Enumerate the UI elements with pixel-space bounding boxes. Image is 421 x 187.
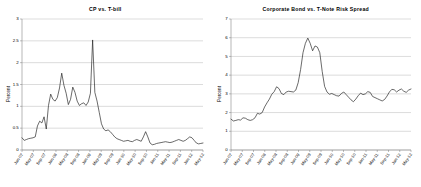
- x-tick-label: May-07: [23, 152, 35, 167]
- y-tick-label: 2.5: [13, 38, 20, 43]
- x-tick-label: May-07: [232, 152, 244, 167]
- x-tick-label: May-08: [57, 152, 69, 167]
- x-tick-label: Sep-09: [311, 152, 323, 166]
- x-tick-label: May-11: [159, 152, 171, 166]
- y-tick-label: 4: [225, 72, 228, 77]
- y-tick-label: 3: [225, 91, 228, 96]
- x-tick-label: May-12: [193, 152, 205, 167]
- y-tick-label: 1.5: [13, 82, 20, 87]
- chart-plot-area: 01234567Jan-07May-07Sep-07Jan-08May-08Se…: [211, 0, 421, 187]
- y-tick-label: 2: [16, 60, 19, 65]
- chart-panel-cp-vs-tbill: CP vs. T-bill Percent 00.511.522.53Jan-0…: [0, 0, 211, 187]
- y-tick-label: 7: [225, 16, 228, 21]
- x-tick-label: May-10: [125, 152, 137, 167]
- x-tick-label: Sep-10: [137, 152, 149, 166]
- x-tick-label: May-09: [299, 152, 311, 167]
- chart-panel-corporate-bond-spread: Corporate Bond vs. T-Note Risk Spread Pe…: [211, 0, 421, 187]
- x-tick-label: Sep-11: [379, 152, 391, 166]
- y-tick-label: 0: [16, 147, 19, 152]
- figure-container: CP vs. T-bill Percent 00.511.522.53Jan-0…: [0, 0, 421, 187]
- x-tick-label: Sep-08: [69, 152, 81, 166]
- x-tick-label: May-10: [333, 152, 345, 167]
- data-series-line: [231, 38, 411, 121]
- y-tick-label: 0.5: [13, 125, 20, 130]
- y-tick-label: 6: [225, 35, 228, 40]
- x-tick-label: May-08: [266, 152, 278, 167]
- x-tick-label: Sep-08: [277, 152, 289, 166]
- y-tick-label: 2: [225, 110, 228, 115]
- chart-plot-area: 00.511.522.53Jan-07May-07Sep-07Jan-08May…: [0, 0, 211, 187]
- x-tick-label: May-12: [401, 152, 413, 167]
- x-tick-label: Sep-09: [103, 152, 115, 166]
- x-tick-label: Sep-07: [35, 152, 47, 166]
- y-tick-label: 1: [16, 103, 19, 108]
- x-tick-label: Sep-10: [345, 152, 357, 166]
- y-tick-label: 0: [225, 147, 228, 152]
- data-series-line: [22, 40, 203, 145]
- x-tick-label: May-09: [91, 152, 103, 167]
- y-tick-label: 1: [225, 128, 228, 133]
- y-tick-label: 3: [16, 16, 19, 21]
- x-tick-label: Sep-11: [171, 152, 183, 166]
- x-tick-label: Sep-07: [243, 152, 255, 166]
- x-tick-label: May-11: [367, 152, 379, 166]
- y-tick-label: 5: [225, 54, 228, 59]
